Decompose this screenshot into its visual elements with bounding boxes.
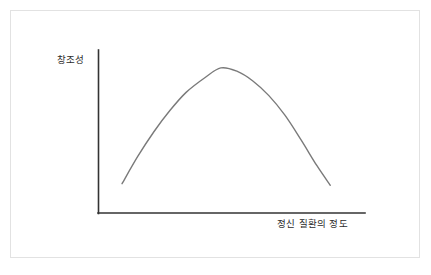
inverted-u-curve [122,68,330,186]
plot-area [0,0,431,275]
y-axis-label: 창조성 [57,54,85,66]
x-axis-label: 정신 질환의 정도 [277,218,348,230]
chart-figure: 창조성 정신 질환의 정도 [0,0,431,275]
